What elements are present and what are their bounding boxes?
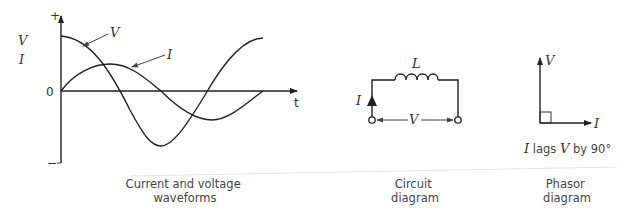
y-axis-label-v: V	[18, 33, 29, 48]
circuit-caption: Circuit diagram	[391, 177, 439, 205]
current-label: I	[355, 93, 362, 108]
voltage-phasor-label: V	[545, 53, 556, 68]
circuit-panel: L I V Circuit diagram	[355, 56, 461, 205]
right-angle-marker	[540, 112, 551, 123]
current-pointer-arrow	[132, 55, 165, 67]
current-direction-arrow	[367, 95, 377, 106]
current-curve	[61, 64, 263, 120]
y-axis-label-i: I	[18, 52, 25, 67]
inductive-ac-diagram: V I + − 0 t V I Current and voltage wave…	[0, 0, 617, 214]
page-edge	[130, 167, 617, 176]
waveforms-caption: Current and voltage waveforms	[126, 177, 245, 205]
left-terminal	[369, 117, 375, 123]
minus-sign: −	[47, 156, 57, 170]
inductor-coil	[395, 74, 438, 80]
phase-note: I lags V by 90°	[523, 141, 611, 156]
inductor-label: L	[411, 56, 421, 71]
voltage-pointer-arrow	[83, 34, 108, 46]
phasor-caption: Phasor diagram	[543, 177, 591, 205]
right-terminal	[455, 117, 461, 123]
voltage-curve-label: V	[110, 25, 121, 40]
voltage-label: V	[409, 112, 420, 127]
time-axis-label: t	[294, 96, 299, 110]
phasor-panel: V I I lags V by 90° Phasor diagram	[523, 53, 611, 205]
zero-label: 0	[46, 85, 54, 99]
current-curve-label: I	[166, 47, 173, 62]
current-phasor-label: I	[593, 116, 600, 131]
plus-sign: +	[50, 9, 60, 23]
